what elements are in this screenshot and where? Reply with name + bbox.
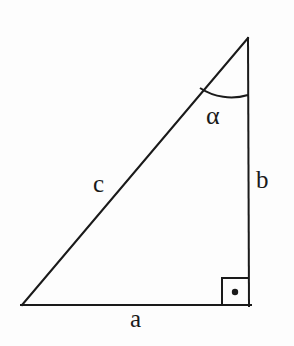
side-label-c: c <box>93 171 104 196</box>
geometry-figure: c b a α <box>0 0 294 346</box>
right-triangle-drawing <box>0 0 294 346</box>
vertical-side-b <box>248 38 249 306</box>
angle-label-alpha: α <box>206 103 220 129</box>
right-angle-dot <box>232 289 238 295</box>
side-label-a: a <box>130 306 141 331</box>
hypotenuse-side-c <box>22 38 248 305</box>
side-label-b: b <box>256 167 269 192</box>
angle-arc-alpha <box>200 88 248 97</box>
